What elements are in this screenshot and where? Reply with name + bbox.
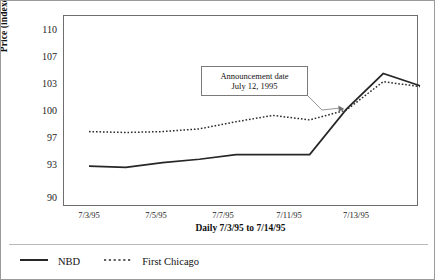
- legend-divider: [9, 244, 428, 245]
- legend-label-first-chicago: First Chicago: [142, 256, 199, 267]
- chart-figure: Price (indexed on July 12, 1995) 110 107…: [0, 0, 435, 280]
- annotation-line-1: Announcement date: [220, 71, 288, 81]
- annotation-arrow-head: [338, 106, 344, 112]
- legend-swatch-nbd: [19, 255, 49, 267]
- chart-legend: NBD First Chicago: [19, 251, 419, 271]
- annotation-announcement-date: Announcement date July 12, 1995: [201, 66, 308, 96]
- legend-swatch-first-chicago: [103, 255, 133, 267]
- annotation-line-2: July 12, 1995: [231, 81, 277, 91]
- annotation-leader-line: [308, 96, 340, 110]
- chart-svg: [1, 1, 435, 280]
- legend-label-nbd: NBD: [58, 256, 80, 267]
